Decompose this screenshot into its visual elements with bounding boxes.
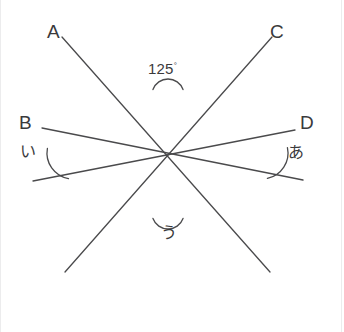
point-label-A: A [47, 22, 60, 41]
angle-label-a: あ [288, 145, 304, 161]
degree-symbol: ° [174, 61, 177, 70]
arc-top [153, 79, 183, 90]
line-D-to-left [33, 130, 295, 181]
geometry-figure: A C B D 125° い あ う [0, 0, 344, 332]
angle-label-u: う [161, 225, 177, 241]
angle-arcs-group [47, 79, 288, 229]
diagram-canvas [0, 0, 344, 332]
point-label-B: B [19, 113, 32, 132]
point-label-C: C [270, 22, 284, 41]
angle-value-125: 125 [148, 60, 174, 77]
angle-label-125-degrees: 125° [148, 61, 177, 76]
angle-label-i: い [20, 144, 36, 160]
point-label-D: D [300, 113, 314, 132]
